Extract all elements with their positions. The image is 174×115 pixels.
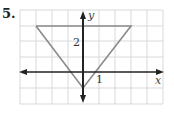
grid	[20, 10, 163, 104]
y-axis-label: y	[87, 9, 95, 22]
y-tick-label: 2	[73, 36, 80, 49]
x-tick-label: 1	[96, 73, 103, 86]
x-axis	[19, 69, 164, 75]
y-axis-down-arrow-icon	[80, 95, 86, 103]
y-axis-up-arrow-icon	[80, 11, 86, 19]
x-axis-label: x	[155, 74, 162, 87]
graph: y x 2 1	[0, 0, 174, 115]
